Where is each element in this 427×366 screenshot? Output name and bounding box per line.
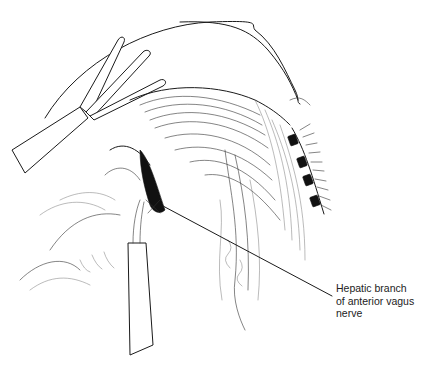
callout-leader-line	[163, 206, 332, 296]
probe-instrument-icon	[128, 200, 153, 355]
callout-line-1: Hepatic branch	[336, 282, 427, 295]
callout-line-2: of anterior vagus	[336, 295, 427, 308]
callout-label: Hepatic branch of anterior vagus nerve	[336, 282, 427, 320]
hiatus-region	[105, 146, 165, 213]
tissue-folds-left	[20, 193, 120, 291]
omentum	[219, 150, 259, 330]
staple-line	[288, 124, 331, 214]
stomach-fibers	[130, 88, 305, 260]
callout-line-3: nerve	[336, 307, 427, 320]
